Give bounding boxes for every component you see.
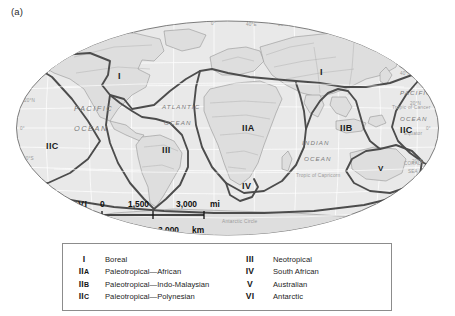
latitude-label: 60°N bbox=[70, 29, 81, 34]
legend-label: Boreal bbox=[105, 255, 127, 264]
latitude-label: 60°S bbox=[386, 215, 397, 220]
latitude-label: 0° bbox=[426, 126, 431, 131]
ocean-label-line2: OCEAN bbox=[400, 115, 428, 122]
region-marker-VI-right: VI bbox=[362, 215, 371, 225]
latitude-label: 20°S bbox=[23, 156, 34, 161]
scale-tick-label: 1,500 bbox=[118, 225, 139, 235]
scale-unit-label: km bbox=[192, 225, 204, 235]
legend-row: V Australian bbox=[227, 279, 391, 289]
region-marker-IIB: IIB bbox=[340, 123, 353, 133]
region-marker-IIA: IIA bbox=[242, 123, 255, 133]
legend-symbol: VI bbox=[227, 291, 273, 301]
legend-column-left: I Boreal IIA Paleotropical—African IIB P… bbox=[63, 254, 227, 302]
region-marker-IIC-east: IIC bbox=[400, 125, 413, 135]
ocean-label-line1: INDIAN bbox=[302, 139, 330, 146]
map-legend: I Boreal IIA Paleotropical—African IIB P… bbox=[62, 243, 392, 311]
scale-tick-label: 0 bbox=[100, 225, 105, 235]
tropic-of-capricorn-label: Tropic of Capricorn bbox=[296, 173, 341, 178]
world-map: 120°W 0° 40°E 80°E 120°E 160°E 60°N 40°N… bbox=[14, 17, 441, 239]
legend-symbol: IIA bbox=[63, 266, 105, 276]
legend-row: IIC Paleotropical—Polynesian bbox=[63, 291, 227, 301]
latitude-label: 0° bbox=[20, 126, 25, 131]
legend-row: I Boreal bbox=[63, 254, 227, 264]
legend-label: Neotropical bbox=[273, 255, 312, 264]
longitude-label: 120°W bbox=[126, 25, 141, 30]
map-canvas: 120°W 0° 40°E 80°E 120°E 160°E 60°N 40°N… bbox=[14, 17, 441, 239]
tropic-of-cancer-label: Tropic of Cancer bbox=[392, 105, 431, 110]
region-marker-III: III bbox=[162, 145, 171, 155]
region-marker-I-northamerica: I bbox=[118, 71, 121, 81]
legend-row: III Neotropical bbox=[227, 254, 391, 264]
region-marker-V: V bbox=[378, 164, 384, 173]
antarctic-circle-label: Antarctic Circle bbox=[222, 219, 258, 224]
legend-label: Paleotropical—Polynesian bbox=[105, 292, 195, 301]
legend-column-right: III Neotropical IV South African V Austr… bbox=[227, 254, 391, 302]
legend-symbol: V bbox=[227, 279, 273, 289]
longitude-label: 0° bbox=[211, 21, 216, 26]
panel-label: (a) bbox=[11, 6, 23, 17]
ocean-label-line2: SEA bbox=[408, 169, 419, 174]
ocean-label-line2: OCEAN bbox=[164, 119, 192, 126]
ocean-label-line1: ATLANTIC bbox=[161, 103, 200, 110]
longitude-label: 40°E bbox=[246, 22, 257, 27]
legend-symbol: I bbox=[63, 254, 105, 264]
ocean-label-line1: CORAL bbox=[404, 161, 421, 166]
legend-label: Paleotropical—African bbox=[105, 267, 181, 276]
region-marker-IV: IV bbox=[242, 181, 251, 191]
legend-row: VI Antarctic bbox=[227, 291, 391, 301]
legend-grid: I Boreal IIA Paleotropical—African IIB P… bbox=[63, 244, 391, 310]
legend-label: Paleotropical—Indo-Malaysian bbox=[105, 280, 209, 289]
legend-symbol: III bbox=[227, 254, 273, 264]
longitude-label: 160°E bbox=[359, 25, 373, 30]
scale-tick-label: 1,500 bbox=[128, 199, 149, 209]
ocean-label-line2: OCEAN bbox=[74, 124, 108, 133]
legend-symbol: IIB bbox=[63, 279, 105, 289]
scale-unit-label: mi bbox=[210, 199, 220, 209]
ocean-label-line2: OCEAN bbox=[304, 155, 332, 162]
legend-row: IIA Paleotropical—African bbox=[63, 266, 227, 276]
region-marker-I-eurasia: I bbox=[320, 67, 323, 77]
longitude-label: 120°E bbox=[318, 23, 332, 28]
latitude-label: 40°N bbox=[36, 69, 47, 74]
scale-tick-label: 3,000 bbox=[176, 199, 197, 209]
ocean-label-line1: PACIFIC bbox=[74, 104, 113, 113]
latitude-label: 60°S bbox=[64, 213, 75, 218]
latitude-label: 40°S bbox=[36, 185, 47, 190]
legend-symbol: IIC bbox=[63, 291, 105, 301]
legend-row: IV South African bbox=[227, 266, 391, 276]
figure-root: (a) bbox=[0, 0, 455, 316]
region-marker-IIC-west: IIC bbox=[46, 141, 59, 151]
legend-label: South African bbox=[273, 267, 319, 276]
latitude-label: 20°N bbox=[24, 98, 35, 103]
scale-tick-label: 0 bbox=[100, 199, 105, 209]
legend-label: Antarctic bbox=[273, 292, 303, 301]
legend-label: Australian bbox=[273, 280, 307, 289]
legend-symbol: IV bbox=[227, 266, 273, 276]
legend-row: IIB Paleotropical—Indo-Malaysian bbox=[63, 279, 227, 289]
